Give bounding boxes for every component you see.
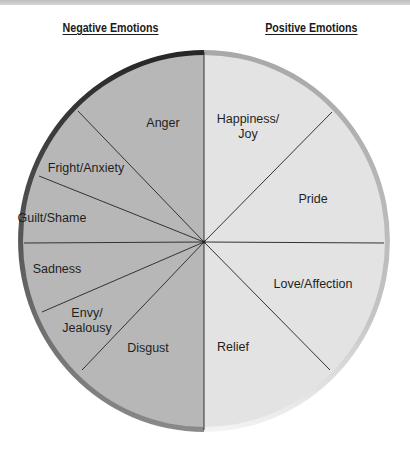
segment-label-sadness: Sadness (33, 262, 82, 276)
segment-label-fright-anxiety: Fright/Anxiety (48, 161, 125, 175)
segment-label-happiness: Happiness/ (217, 112, 280, 126)
segment-label-relief: Relief (217, 340, 249, 354)
segment-label-envy: Envy/ (71, 306, 103, 320)
segment-label-jealousy: Jealousy (62, 321, 112, 335)
segment-label-love-affection: Love/Affection (274, 277, 353, 291)
positive-half (204, 55, 385, 427)
segment-label-guilt-shame: Guilt/Shame (18, 211, 87, 225)
segment-label-anger: Anger (146, 116, 179, 130)
negative-half (23, 55, 204, 427)
segment-label-disgust: Disgust (127, 341, 169, 355)
emotion-wheel: Anger Fright/Anxiety Guilt/Shame Sadness… (0, 0, 410, 451)
segment-label-joy: Joy (238, 127, 258, 141)
segment-label-pride: Pride (298, 192, 327, 206)
